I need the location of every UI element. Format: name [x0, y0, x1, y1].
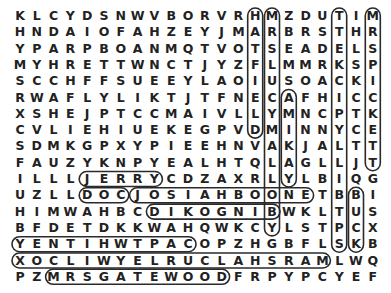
found-word-outline: [130, 188, 314, 203]
word-search-grid[interactable]: KLCYDSNWVBORVRHMZDUTIMHNDAIOFAHZEYJMARBR…: [0, 0, 391, 293]
found-word-outline: [265, 8, 280, 236]
found-word-outline: [248, 8, 263, 138]
found-word-outline: [79, 188, 129, 203]
found-word-outline: [79, 172, 162, 187]
found-word-outline: [146, 204, 280, 219]
found-word-outline: [12, 253, 330, 268]
found-word-outline: [12, 237, 196, 252]
found-word-outline: [349, 187, 364, 252]
found-word-outline: [332, 8, 347, 252]
found-word-outline: [46, 269, 230, 284]
found-word-highlights: [0, 0, 391, 293]
found-word-outline: [281, 90, 296, 188]
found-word-outline: [365, 8, 380, 171]
